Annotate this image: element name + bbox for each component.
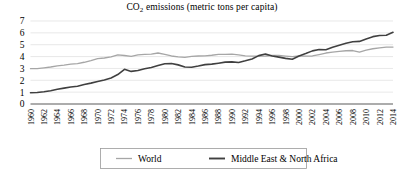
x-axis-tick-label: 2012 — [376, 109, 385, 125]
x-axis-tick-label: 1974 — [120, 109, 129, 125]
legend-label-mena: Middle East & North Africa — [231, 154, 338, 164]
x-axis-tick-label: 2000 — [295, 109, 304, 125]
legend-label-world: World — [138, 154, 162, 164]
x-axis-tick-label: 1992 — [241, 109, 250, 125]
x-axis-tick-label: 1964 — [53, 109, 62, 125]
y-axis-tick-label: 2 — [20, 76, 25, 86]
x-axis-tick-label: 1978 — [147, 109, 156, 125]
x-axis-tick-label: 1972 — [107, 109, 116, 125]
y-axis-tick-labels: 01234567 — [20, 16, 25, 109]
x-axis-tick-labels: 1960196219641966196819701972197419761978… — [27, 109, 399, 125]
y-axis-tick-label: 3 — [20, 64, 25, 74]
x-axis-tick-label: 2002 — [308, 109, 317, 125]
x-axis-tick-label: 1960 — [27, 109, 36, 125]
y-axis-tick-label: 4 — [20, 52, 25, 62]
x-axis-tick-label: 1986 — [201, 109, 210, 125]
y-axis-tick-label: 0 — [20, 99, 25, 109]
y-axis-tick-label: 7 — [20, 16, 25, 26]
co2-emissions-line-chart: CO2 emissions (metric tons per capita) 0… — [0, 0, 404, 176]
x-axis-tick-label: 1962 — [40, 109, 49, 125]
x-axis-tick-label: 1984 — [188, 109, 197, 125]
x-axis-tick-label: 1996 — [268, 109, 277, 125]
y-axis-tick-label: 5 — [20, 40, 25, 50]
chart-legend: WorldMiddle East & North Africa — [101, 149, 339, 169]
x-axis-tick-label: 2010 — [362, 109, 371, 125]
chart-plot-area: 01234567 1960196219641966196819701972197… — [0, 0, 404, 176]
x-axis-tick-label: 2008 — [349, 109, 358, 125]
x-axis-tick-label: 1976 — [134, 109, 143, 125]
x-axis-tick-label: 1982 — [174, 109, 183, 125]
x-axis-tick-label: 1970 — [94, 109, 103, 125]
series-line-world — [31, 47, 394, 69]
x-axis-tick-label: 1990 — [228, 109, 237, 125]
data-series-group — [31, 32, 394, 92]
x-axis-tick-label: 1968 — [80, 109, 89, 125]
x-axis-tick-label: 2006 — [335, 109, 344, 125]
x-axis-tick-label: 2004 — [322, 109, 331, 125]
y-axis-tick-label: 1 — [20, 88, 25, 98]
x-axis-tick-label: 1994 — [255, 109, 264, 125]
x-axis-tick-label: 1980 — [161, 109, 170, 125]
x-axis-tick-label: 1988 — [214, 109, 223, 125]
x-axis-tick-label: 1966 — [67, 109, 76, 125]
x-axis-tick-label: 2014 — [389, 109, 398, 125]
x-axis-tick-label: 1998 — [282, 109, 291, 125]
y-axis-tick-label: 6 — [20, 28, 25, 38]
